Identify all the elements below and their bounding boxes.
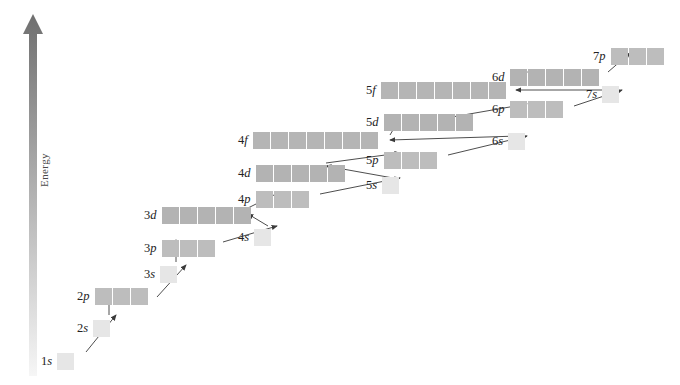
orbital-box (131, 288, 148, 305)
orbital-box (453, 82, 470, 99)
orbital-box (271, 132, 288, 149)
orbital-box (361, 132, 378, 149)
orbital-4f: 4f (238, 131, 378, 149)
orbital-box (274, 191, 291, 208)
orbital-box (113, 288, 130, 305)
orbital-label-3s: 3s (144, 267, 155, 282)
orbital-box (384, 114, 401, 131)
orbital-3d: 3d (144, 206, 251, 224)
orbital-boxes-5d (384, 114, 473, 131)
orbital-box (438, 114, 455, 131)
orbital-box (611, 48, 628, 65)
orbital-box (198, 240, 215, 257)
orbital-box (343, 132, 360, 149)
orbital-3p: 3p (144, 239, 215, 257)
orbital-boxes-1s (57, 353, 74, 370)
orbital-box (417, 82, 434, 99)
orbital-boxes-4p (256, 191, 309, 208)
fill-arrow-4s-to-3d (248, 214, 268, 226)
orbital-box (234, 207, 251, 224)
orbital-box (381, 82, 398, 99)
orbital-2p: 2p (77, 287, 148, 305)
orbital-boxes-5p (384, 152, 437, 169)
orbital-label-6d: 6d (492, 70, 505, 85)
orbital-boxes-7s (602, 86, 619, 103)
orbital-4s: 4s (238, 228, 271, 246)
orbital-label-7s: 7s (586, 87, 597, 102)
orbital-box (399, 82, 416, 99)
orbital-box (647, 48, 664, 65)
energy-axis-label: Energy (38, 135, 50, 205)
orbital-7p: 7p (593, 47, 664, 65)
orbital-label-7p: 7p (593, 49, 606, 64)
orbital-box (402, 114, 419, 131)
orbital-box (57, 353, 74, 370)
orbital-boxes-5s (382, 177, 399, 194)
orbital-5s: 5s (366, 176, 399, 194)
orbital-box (162, 207, 179, 224)
orbital-label-6s: 6s (492, 134, 503, 149)
orbital-4d: 4d (238, 164, 345, 182)
orbital-box (95, 288, 112, 305)
orbital-label-1s: 1s (41, 354, 52, 369)
orbital-boxes-3s (160, 266, 177, 283)
orbital-box (256, 191, 273, 208)
orbital-boxes-6s (508, 133, 525, 150)
orbital-box (528, 69, 545, 86)
orbital-label-3d: 3d (144, 208, 157, 223)
orbital-box (292, 165, 309, 182)
orbital-box (289, 132, 306, 149)
energy-axis-arrow: Energy (22, 14, 44, 376)
orbital-label-3p: 3p (144, 241, 157, 256)
orbital-box (435, 82, 452, 99)
orbital-box (292, 191, 309, 208)
orbital-label-2s: 2s (77, 321, 88, 336)
orbital-2s: 2s (77, 319, 110, 337)
orbital-box (402, 152, 419, 169)
orbital-1s: 1s (41, 352, 74, 370)
orbital-3s: 3s (144, 265, 177, 283)
orbital-box (162, 240, 179, 257)
orbital-label-4d: 4d (238, 166, 251, 181)
orbital-label-5f: 5f (366, 83, 376, 98)
orbital-box (198, 207, 215, 224)
orbital-box (510, 69, 527, 86)
orbital-box (546, 69, 563, 86)
orbital-box (528, 101, 545, 118)
orbital-label-2p: 2p (77, 289, 90, 304)
orbital-boxes-6p (510, 101, 563, 118)
orbital-box (328, 165, 345, 182)
orbital-boxes-7p (611, 48, 664, 65)
orbital-boxes-3d (162, 207, 251, 224)
orbital-7s: 7s (586, 85, 619, 103)
orbital-boxes-4d (256, 165, 345, 182)
orbital-box (256, 165, 273, 182)
orbital-6d: 6d (492, 68, 599, 86)
orbital-box (602, 86, 619, 103)
orbital-box (180, 240, 197, 257)
orbital-label-4s: 4s (238, 230, 249, 245)
orbital-energy-diagram: Energy 1s2s2p3s3p3d4s4p4d4f5s5p5d5f6s6p6… (0, 0, 680, 385)
orbital-box (325, 132, 342, 149)
orbital-boxes-4f (253, 132, 378, 149)
orbital-5d: 5d (366, 113, 473, 131)
orbital-6s: 6s (492, 132, 525, 150)
orbital-label-5d: 5d (366, 115, 379, 130)
orbital-boxes-3p (162, 240, 215, 257)
orbital-box (629, 48, 646, 65)
orbital-box (420, 152, 437, 169)
orbital-box (420, 114, 437, 131)
orbital-boxes-6d (510, 69, 599, 86)
orbital-label-4f: 4f (238, 133, 248, 148)
orbital-box (310, 165, 327, 182)
orbital-box (384, 152, 401, 169)
orbital-label-5p: 5p (366, 153, 379, 168)
orbital-box (564, 69, 581, 86)
orbital-boxes-2p (95, 288, 148, 305)
orbital-box (510, 101, 527, 118)
orbital-label-4p: 4p (238, 192, 251, 207)
orbital-boxes-5f (381, 82, 506, 99)
orbital-box (456, 114, 473, 131)
orbital-box (216, 207, 233, 224)
orbital-label-6p: 6p (492, 102, 505, 117)
